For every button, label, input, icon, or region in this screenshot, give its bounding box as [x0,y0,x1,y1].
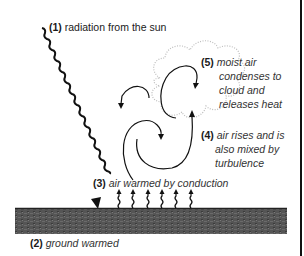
ground-surface [15,208,287,234]
step-4-line-1: air rises and is [217,129,285,141]
radiation-arrowhead [91,197,101,209]
step-1-text: radiation from the sun [65,21,167,33]
step-3-number: (3) [93,177,106,189]
step-2-text: ground warmed [46,237,119,249]
convection-arrows [121,66,197,180]
step-5-line-2-wrap: condenses to [219,70,281,82]
diagram-canvas [0,0,304,256]
step-4-line-3: turbulence [215,157,264,169]
step-1-label: (1) radiation from the sun [49,21,166,33]
step-5-line-2: condenses to [219,70,281,82]
step-4-line-2: also mixed by [215,143,279,155]
step-5-line-4-wrap: releases heat [219,98,282,110]
step-5-line-3: cloud and [219,84,265,96]
step-2-label: (2) ground warmed [30,237,119,249]
convection-arrowheads [118,83,199,140]
step-5-number: (5) [201,56,214,68]
step-4-line-2-wrap: also mixed by [215,143,279,155]
step-4-number: (4) [201,129,214,141]
step-4-label: (4) air rises and is [201,129,284,141]
frame-right-border [300,0,302,256]
step-3-text: air warmed by conduction [109,177,229,189]
step-5-line-1: moist air [217,56,257,68]
convection-diagram: (1) radiation from the sun (5) moist air… [0,0,304,256]
step-3-label: (3) air warmed by conduction [93,177,228,189]
step-4-line-3-wrap: turbulence [215,157,264,169]
step-5-line-3-wrap: cloud and [219,84,265,96]
step-2-number: (2) [30,237,43,249]
step-1-number: (1) [49,21,62,33]
step-5-line-4: releases heat [219,98,282,110]
step-5-label: (5) moist air [201,56,256,68]
conduction-arrows [118,193,192,208]
